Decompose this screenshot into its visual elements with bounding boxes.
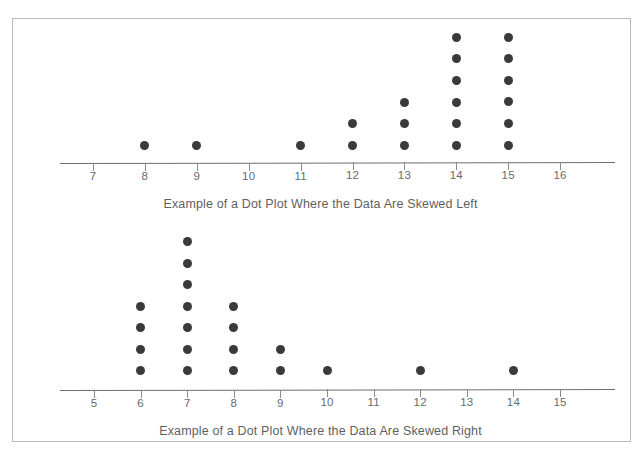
x-tick-label-8: 8 (214, 397, 254, 409)
x-tick-label-7: 7 (73, 170, 113, 182)
x-tick-label-10: 10 (229, 170, 269, 182)
x-tick-label-9: 9 (260, 397, 300, 409)
data-dot (504, 119, 513, 128)
data-dot (452, 33, 461, 42)
caption-skewed-left: Example of a Dot Plot Where the Data Are… (0, 197, 641, 211)
data-dot (276, 366, 285, 375)
x-tick-label-11: 11 (281, 170, 321, 182)
data-dot (452, 98, 461, 107)
x-tick-label-13: 13 (447, 396, 487, 408)
x-tick-label-7: 7 (167, 397, 207, 409)
x-tick-label-12: 12 (400, 396, 440, 408)
data-dot (183, 323, 192, 332)
data-dot (183, 366, 192, 375)
data-dot (452, 119, 461, 128)
data-dot (416, 366, 425, 375)
x-tick-label-5: 5 (74, 397, 114, 409)
x-tick-label-13: 13 (384, 169, 424, 181)
data-dot (323, 366, 332, 375)
x-tick-label-10: 10 (307, 396, 347, 408)
data-dot (183, 345, 192, 354)
data-dot (183, 259, 192, 268)
dot-plot-figure: 78910111213141516 Example of a Dot Plot … (0, 0, 641, 457)
data-dot (183, 302, 192, 311)
x-tick-label-9: 9 (177, 170, 217, 182)
x-tick-label-11: 11 (354, 396, 394, 408)
data-dot (452, 76, 461, 85)
x-tick-label-6: 6 (121, 397, 161, 409)
x-tick-label-16: 16 (540, 169, 580, 181)
data-dot (276, 345, 285, 354)
x-tick-label-8: 8 (125, 170, 165, 182)
data-dot (509, 366, 518, 375)
caption-skewed-right: Example of a Dot Plot Where the Data Are… (0, 424, 641, 438)
x-tick-label-14: 14 (493, 396, 533, 408)
data-dot (229, 302, 238, 311)
data-dot (504, 33, 513, 42)
data-dot (504, 54, 513, 63)
data-dot (183, 280, 192, 289)
x-tick-label-15: 15 (488, 169, 528, 181)
data-dot (136, 302, 145, 311)
data-dot (183, 237, 192, 246)
x-tick-label-14: 14 (436, 169, 476, 181)
data-dot (452, 141, 461, 150)
data-dot (348, 141, 357, 150)
data-dot (400, 98, 409, 107)
data-dot (229, 345, 238, 354)
figure-border-frame (12, 18, 631, 442)
data-dot (504, 76, 513, 85)
data-dot (400, 141, 409, 150)
data-dot (136, 345, 145, 354)
x-tick-label-12: 12 (333, 169, 373, 181)
data-dot (504, 141, 513, 150)
x-tick-label-15: 15 (540, 396, 580, 408)
